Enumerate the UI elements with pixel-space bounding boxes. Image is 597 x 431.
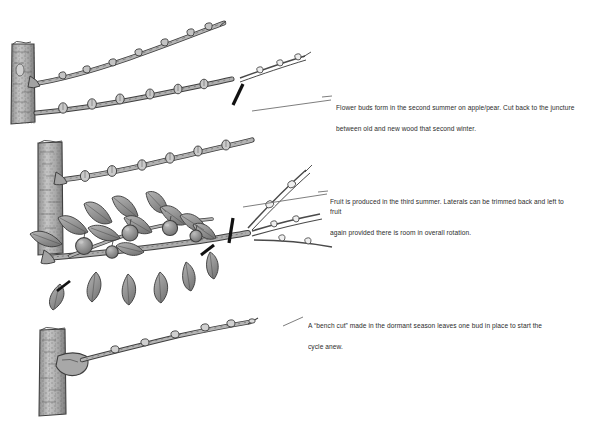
- panel-2b-flower-bud-branch: [54, 140, 252, 185]
- caption-fruit-third-summer-line-2: again provided there is room in overall …: [330, 228, 577, 239]
- panel-3-fruiting-branch: [30, 165, 332, 310]
- caption-flower-buds: Flower buds form in the second summer on…: [336, 92, 577, 145]
- panel-2-flower-buds: [36, 52, 311, 113]
- cut-mark-panel-3-upper: [229, 218, 233, 243]
- caption-fruit-third-summer: Fruit is produced in the third summer. L…: [330, 186, 577, 250]
- caption-bench-cut-line-1: A “bench cut” made in the dormant season…: [308, 321, 567, 332]
- caption-flower-buds-line-1: Flower buds form in the second summer on…: [336, 103, 577, 114]
- caption-bench-cut: A “bench cut” made in the dormant season…: [308, 310, 567, 363]
- leader-tick-caption-2: [318, 191, 328, 192]
- cut-mark-panel-2: [233, 84, 243, 105]
- caption-bench-cut-line-2: cycle anew.: [308, 342, 567, 353]
- caption-flower-buds-line-2: between old and new wood that second win…: [336, 124, 577, 135]
- leader-tick-caption-1: [322, 96, 332, 97]
- leader-line-caption-3: [283, 317, 303, 326]
- panel-4-bench-cut: [56, 318, 258, 376]
- leader-line-caption-1: [252, 100, 331, 111]
- caption-fruit-third-summer-line-1: Fruit is produced in the third summer. L…: [330, 197, 577, 218]
- panel-1-dormant-shoot: [28, 21, 226, 88]
